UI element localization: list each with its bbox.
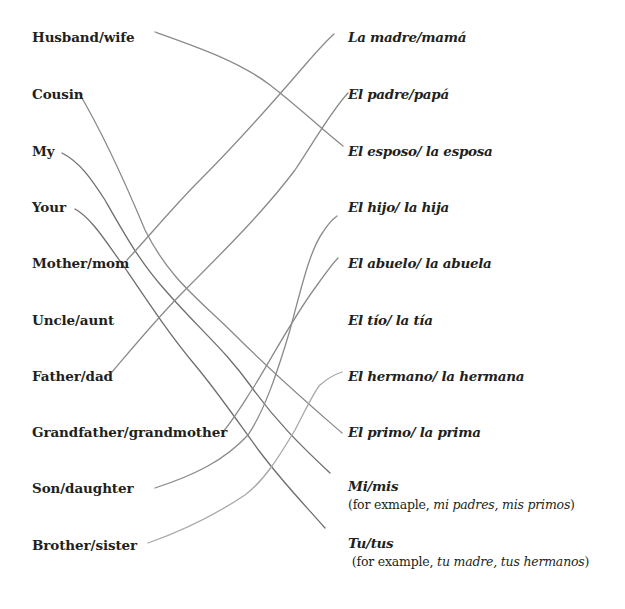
spanish-term-padre: El padre/papá: [348, 86, 449, 102]
spanish-term-mi-mis: Mi/mis: [348, 478, 398, 494]
line-mother-madre: [127, 34, 334, 260]
spanish-term-tu-tus: Tu/tus: [348, 535, 393, 551]
example-tu-tus: (for example, tu madre, tus hermanos): [348, 554, 589, 569]
english-term-brother-sister: Brother/sister: [32, 537, 137, 553]
example-mi-italic: mi padres, mis primos: [433, 497, 570, 512]
line-son-hijo: [155, 216, 337, 488]
spanish-term-primo: El primo/ la prima: [348, 424, 481, 440]
english-term-husband-wife: Husband/wife: [32, 29, 135, 45]
line-grandfather-abuelo: [222, 258, 338, 433]
english-term-your: Your: [32, 199, 66, 215]
english-term-uncle-aunt: Uncle/aunt: [32, 312, 114, 328]
english-term-my: My: [32, 143, 55, 159]
example-tu-italic: tu madre, tus hermanos: [437, 554, 584, 569]
spanish-term-hijo: El hijo/ la hija: [348, 199, 449, 215]
example-tu-prefix: (for example,: [348, 554, 437, 569]
english-term-son-daughter: Son/daughter: [32, 480, 134, 496]
example-tu-suffix: ): [585, 554, 590, 569]
spanish-term-madre: La madre/mamá: [348, 29, 466, 45]
matching-worksheet: Husband/wife Cousin My Your Mother/mom U…: [0, 0, 625, 609]
english-term-father-dad: Father/dad: [32, 368, 113, 384]
english-term-cousin: Cousin: [32, 86, 84, 102]
spanish-term-hermano: El hermano/ la hermana: [348, 368, 524, 384]
english-term-grandfather-grandmother: Grandfather/grandmother: [32, 424, 227, 440]
example-mi-suffix: ): [570, 497, 575, 512]
spanish-term-esposo: El esposo/ la esposa: [348, 143, 493, 159]
spanish-term-tio: El tío/ la tía: [348, 312, 433, 328]
example-mi-mis: (for exmaple, mi padres, mis primos): [348, 497, 575, 512]
english-term-mother-mom: Mother/mom: [32, 255, 129, 271]
spanish-term-abuelo: El abuelo/ la abuela: [348, 255, 492, 271]
example-mi-prefix: (for exmaple,: [348, 497, 433, 512]
connection-lines: [0, 0, 625, 609]
